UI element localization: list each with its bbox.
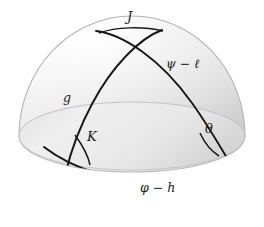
spherical-triangle-figure: J ψ − ℓ g K θ φ − h [0, 0, 264, 227]
label-angle-J: J [127, 10, 132, 23]
label-side-phi-minus-h: φ − h [140, 182, 175, 195]
label-angle-theta: θ [205, 122, 213, 135]
hemisphere-diagram-svg [0, 0, 264, 227]
label-angle-K: K [87, 130, 97, 143]
label-side-g: g [63, 92, 71, 105]
label-side-psi-minus-ell: ψ − ℓ [166, 58, 199, 71]
